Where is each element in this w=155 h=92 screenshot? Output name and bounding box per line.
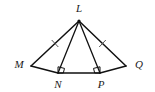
label-M: M xyxy=(13,58,24,70)
segment-PQ xyxy=(100,66,126,73)
segment-LN xyxy=(58,21,79,73)
label-N: N xyxy=(53,78,62,90)
label-L: L xyxy=(75,2,82,14)
segment-MN xyxy=(31,66,58,73)
geometry-canvas: L M N P Q xyxy=(0,0,155,92)
geometry-figure: L M N P Q xyxy=(0,0,155,92)
segment-LP xyxy=(79,21,100,73)
label-P: P xyxy=(97,78,105,90)
label-Q: Q xyxy=(135,58,143,70)
vertex-dot-L xyxy=(77,19,80,22)
